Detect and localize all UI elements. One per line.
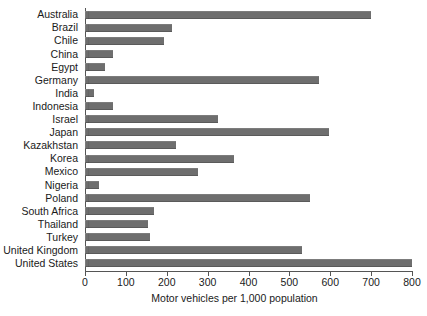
bar-row	[85, 244, 412, 257]
y-axis-label: Egypt	[0, 60, 82, 73]
bar-chart: AustraliaBrazilChileChinaEgyptGermanyInd…	[0, 0, 427, 316]
y-axis-label: United Kingdom	[0, 244, 82, 257]
bar	[85, 128, 329, 136]
bar	[85, 37, 164, 45]
y-axis-label: Indonesia	[0, 100, 82, 113]
bar-row	[85, 87, 412, 100]
bar-row	[85, 8, 412, 21]
bar	[85, 50, 113, 58]
bar-row	[85, 191, 412, 204]
bar	[85, 102, 113, 110]
y-axis-label: United States	[0, 257, 82, 270]
y-axis-label: Turkey	[0, 231, 82, 244]
y-axis-label: Thailand	[0, 218, 82, 231]
bar-row	[85, 231, 412, 244]
y-axis-label: Japan	[0, 126, 82, 139]
x-axis-tick-label: 700	[362, 277, 380, 288]
x-axis-tick-label: 300	[199, 277, 217, 288]
x-axis-title-text: Motor vehicles per 1,000 population	[151, 293, 317, 304]
bar-row	[85, 165, 412, 178]
bar	[85, 220, 148, 228]
y-axis-label: Germany	[0, 73, 82, 86]
bar-row	[85, 21, 412, 34]
y-axis-label: Mexico	[0, 165, 82, 178]
bar-row	[85, 34, 412, 47]
bar	[85, 207, 154, 215]
y-axis-label: India	[0, 87, 82, 100]
y-axis-label: Nigeria	[0, 178, 82, 191]
bar-row	[85, 178, 412, 191]
y-axis-label: South Africa	[0, 204, 82, 217]
x-axis-tick-label: 0	[82, 277, 88, 288]
x-axis-tick-label: 600	[321, 277, 339, 288]
bar	[85, 24, 172, 32]
x-axis-tick-label: 500	[281, 277, 299, 288]
bar-row	[85, 139, 412, 152]
x-axis-tick-label: 100	[117, 277, 135, 288]
bar-row	[85, 47, 412, 60]
bar	[85, 181, 99, 189]
bar-row	[85, 218, 412, 231]
bar-row	[85, 257, 412, 270]
y-axis-label: Australia	[0, 8, 82, 21]
y-axis-label: China	[0, 47, 82, 60]
y-axis-label: Kazakhstan	[0, 139, 82, 152]
x-axis-tick-label: 400	[240, 277, 258, 288]
bar-row	[85, 126, 412, 139]
bar	[85, 155, 234, 163]
bar-rows	[85, 8, 412, 270]
y-axis-label: Poland	[0, 191, 82, 204]
bar-row	[85, 100, 412, 113]
x-axis-tick-label: 200	[158, 277, 176, 288]
bar-row	[85, 113, 412, 126]
bar	[85, 259, 412, 267]
bar-row	[85, 152, 412, 165]
bar	[85, 233, 150, 241]
bar	[85, 76, 319, 84]
bar-row	[85, 73, 412, 86]
y-axis-label: Brazil	[0, 21, 82, 34]
bar	[85, 246, 302, 254]
y-axis-label: Chile	[0, 34, 82, 47]
bar	[85, 11, 371, 19]
bar	[85, 168, 198, 176]
bar	[85, 141, 176, 149]
bar	[85, 115, 218, 123]
x-axis-tick-label: 800	[403, 277, 421, 288]
bar-row	[85, 204, 412, 217]
bar-row	[85, 60, 412, 73]
x-axis-tick-labels: 0100200300400500600700800	[0, 277, 427, 291]
x-axis-title: Motor vehicles per 1,000 population	[0, 293, 427, 304]
bar	[85, 194, 310, 202]
plot-area	[85, 8, 412, 270]
y-axis-label: Korea	[0, 152, 82, 165]
bar	[85, 63, 105, 71]
y-axis-label: Israel	[0, 113, 82, 126]
bar	[85, 89, 94, 97]
y-axis-category-labels: AustraliaBrazilChileChinaEgyptGermanyInd…	[0, 8, 82, 270]
